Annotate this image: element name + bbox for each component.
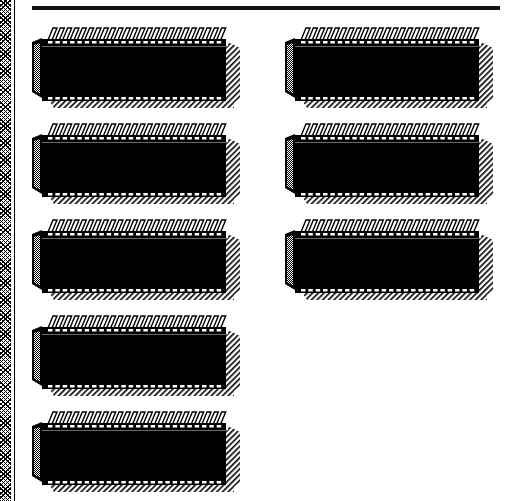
dip-chip-icon[interactable]	[30, 214, 245, 304]
top-rule-divider	[32, 6, 500, 10]
dip-chip-icon[interactable]	[30, 406, 245, 496]
dip-chip-icon[interactable]	[30, 22, 245, 112]
window-border-edge	[11, 0, 15, 501]
dip-chip-icon[interactable]	[283, 214, 498, 304]
dip-chip-icon[interactable]	[30, 118, 245, 208]
dip-chip-icon[interactable]	[30, 310, 245, 400]
dip-chip-icon[interactable]	[283, 118, 498, 208]
window-left-border	[0, 0, 11, 501]
dip-chip-icon[interactable]	[283, 22, 498, 112]
